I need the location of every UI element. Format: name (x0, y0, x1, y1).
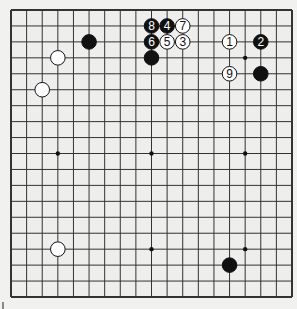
white-stone-7: 7 (175, 19, 190, 34)
stone-circle (51, 51, 66, 66)
edge-mark (2, 302, 4, 309)
move-number: 1 (226, 35, 233, 49)
star-point (243, 247, 247, 251)
stone-circle (82, 35, 97, 50)
move-number: 2 (257, 35, 264, 49)
star-point (149, 247, 153, 251)
white-stone-5: 5 (160, 35, 175, 50)
star-point (243, 56, 247, 60)
white-stone-9: 9 (222, 66, 237, 81)
black-stone (144, 51, 159, 66)
stone-circle (35, 82, 50, 97)
star-point (149, 151, 153, 155)
star-point (243, 151, 247, 155)
move-number: 8 (148, 19, 155, 33)
move-number: 9 (226, 67, 233, 81)
move-number: 3 (179, 35, 186, 49)
stone-circle (144, 51, 159, 66)
white-stone (35, 82, 50, 97)
go-board: 123456789 (0, 0, 297, 309)
stone-circle (253, 66, 268, 81)
black-stone-8: 8 (144, 19, 159, 34)
move-number: 5 (164, 35, 171, 49)
white-stone (51, 242, 66, 257)
white-stone-3: 3 (175, 35, 190, 50)
black-stone (222, 258, 237, 273)
black-stone-4: 4 (160, 19, 175, 34)
move-number: 6 (148, 35, 155, 49)
white-stone-1: 1 (222, 35, 237, 50)
black-stone (82, 35, 97, 50)
stone-circle (51, 242, 66, 257)
stone-circle (222, 258, 237, 273)
star-point (56, 151, 60, 155)
move-number: 4 (164, 19, 171, 33)
move-number: 7 (179, 19, 186, 33)
white-stone (51, 51, 66, 66)
black-stone-2: 2 (253, 35, 268, 50)
black-stone (253, 66, 268, 81)
black-stone-6: 6 (144, 35, 159, 50)
